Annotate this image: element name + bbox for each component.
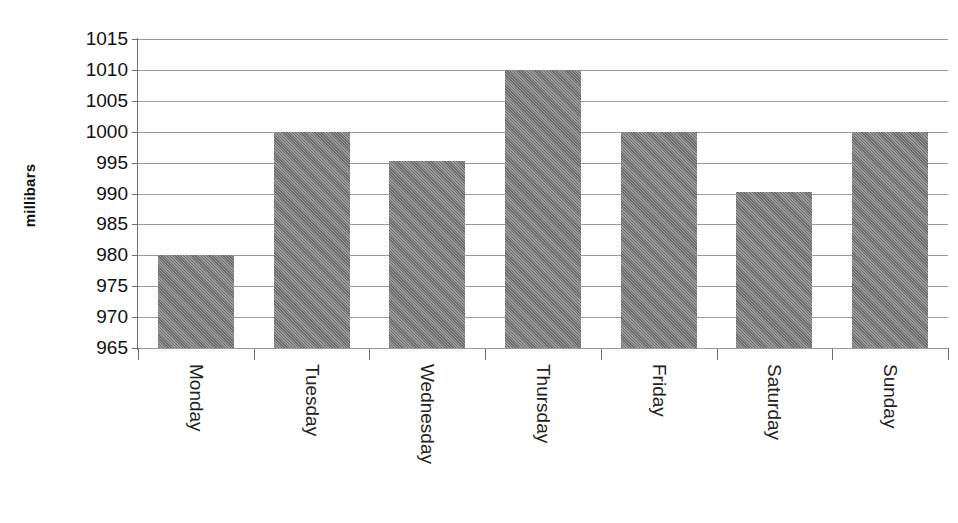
bar — [158, 255, 234, 348]
chart-title — [400, 0, 560, 8]
y-tick-label: 1015 — [56, 29, 128, 48]
x-tickmark — [717, 349, 718, 360]
x-tick-label: Thursday — [485, 360, 601, 523]
x-tickmark — [948, 349, 949, 360]
y-tick-label: 1005 — [56, 91, 128, 110]
x-axis-category-labels: MondayTuesdayWednesdayThursdayFridaySatu… — [138, 360, 948, 523]
y-tick-label: 995 — [56, 153, 128, 172]
y-tick-label: 990 — [56, 184, 128, 203]
x-tickmark — [485, 349, 486, 360]
y-tick-label: 1000 — [56, 122, 128, 141]
y-tick-label: 970 — [56, 307, 128, 326]
x-tick-label-text: Thursday — [534, 364, 553, 443]
bar — [736, 192, 812, 348]
y-tickmark — [132, 101, 138, 102]
y-axis-tick-labels: 1015101010051000995990985980975970965 — [56, 0, 128, 523]
x-tickmark — [601, 349, 602, 360]
x-tick-label: Friday — [601, 360, 717, 523]
x-tick-label-text: Saturday — [765, 364, 784, 440]
x-tick-label: Monday — [138, 360, 254, 523]
y-axis-title: millibars — [0, 130, 60, 260]
x-tickmark — [254, 349, 255, 360]
x-tickmark — [369, 349, 370, 360]
x-tick-label-text: Wednesday — [418, 364, 437, 464]
x-tick-label-text: Monday — [187, 364, 206, 432]
x-tick-label: Wednesday — [369, 360, 485, 523]
x-tickmark — [138, 349, 139, 360]
y-tickmark — [132, 39, 138, 40]
gridline — [138, 348, 948, 349]
x-tick-label: Tuesday — [254, 360, 370, 523]
plot-area — [138, 39, 948, 348]
x-tick-label-text: Sunday — [881, 364, 900, 428]
bar — [274, 132, 350, 348]
y-tickmark — [132, 70, 138, 71]
y-tick-label: 980 — [56, 245, 128, 264]
bar — [505, 70, 581, 348]
y-tickmark — [132, 194, 138, 195]
bar — [621, 132, 697, 348]
bar — [389, 161, 465, 348]
y-axis-title-label: millibars — [22, 163, 39, 227]
y-tickmark — [132, 163, 138, 164]
y-tickmark — [132, 255, 138, 256]
x-tick-label-text: Friday — [650, 364, 669, 417]
y-tick-label: 975 — [56, 276, 128, 295]
y-tick-label: 1010 — [56, 60, 128, 79]
y-tickmark — [132, 317, 138, 318]
y-tickmark — [132, 286, 138, 287]
y-tick-label: 965 — [56, 338, 128, 357]
y-tick-label: 985 — [56, 214, 128, 233]
x-tick-label: Sunday — [832, 360, 948, 523]
x-tick-label: Saturday — [717, 360, 833, 523]
y-tickmark — [132, 132, 138, 133]
bars-group — [138, 39, 948, 348]
bar — [852, 132, 928, 348]
y-tickmark — [132, 348, 138, 349]
x-tick-label-text: Tuesday — [303, 364, 322, 436]
y-tickmark — [132, 224, 138, 225]
bar-chart: millibars 101510101005100099599098598097… — [0, 0, 958, 523]
x-tickmark — [832, 349, 833, 360]
